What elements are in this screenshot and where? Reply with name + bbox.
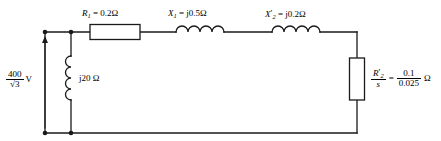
label-x2: X′2 = j0.2Ω [265,9,306,20]
load-value-fraction: 0.1 0.025 [397,69,421,89]
node-dot-bottom-left [43,131,48,136]
inductor-j20-symbol [66,56,72,100]
load-subscript: 2 [380,72,383,79]
load-symbol-fraction: R′2 s [371,68,386,90]
label-r1: R1 = 0.2Ω [82,9,118,19]
source-unit: V [24,74,33,84]
x1-equals: = [179,8,184,18]
x2-subscript: 2 [272,13,275,20]
load-equals: = [389,74,394,83]
load-unit: Ω [424,74,431,83]
resistor-load-symbol [350,58,365,100]
load-value-denominator: 0.025 [397,79,421,88]
r1-equals: = [93,8,98,18]
x2-unit: Ω [299,9,306,19]
shunt-value: j20 [79,73,91,83]
x1-unit: Ω [200,8,207,18]
shunt-unit: Ω [93,73,100,83]
circuit-diagram: R1 = 0.2Ω X1 = j0.5Ω X′2 = j0.2Ω 400 √3 … [0,0,441,141]
x2-equals: = [278,9,283,19]
node-dot-bottom-shunt [69,131,74,136]
load-slip-symbol: s [371,80,386,89]
label-shunt-reactance: j20 Ω [79,74,99,83]
x1-subscript: 1 [174,12,177,19]
inductor-x1-symbol [176,26,224,32]
r1-subscript: 1 [88,12,91,19]
inductor-x2-symbol [272,26,320,32]
resistor-r1-symbol [90,25,140,40]
r1-unit: Ω [112,8,119,18]
source-fraction: 400 √3 [6,70,24,90]
source-arrowhead [42,36,48,43]
label-x1: X1 = j0.5Ω [168,9,207,19]
source-denominator: √3 [6,80,24,89]
r1-value: 0.2 [100,8,111,18]
x1-value: j0.5 [186,8,200,18]
node-dot-top-shunt [69,30,74,35]
label-source-voltage: 400 √3 V [6,70,32,90]
node-dot-top-left [43,30,48,35]
label-load-resistance: R′2 s = 0.1 0.025 Ω [371,68,431,90]
x2-value: j0.2 [285,9,299,19]
